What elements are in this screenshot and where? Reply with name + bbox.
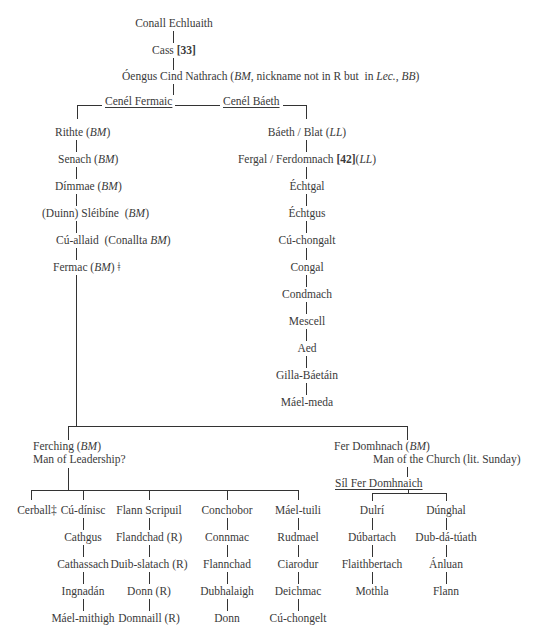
person-ferching-desc-4-2: Ciarodur	[278, 558, 319, 571]
connector	[227, 518, 228, 530]
connector	[149, 545, 150, 557]
connector	[149, 599, 150, 611]
connector	[306, 356, 307, 368]
person-ferching-desc-1-0: Cú-dínisc	[61, 504, 106, 517]
person-ferching-desc-4-4: Cú-chongelt	[270, 612, 327, 625]
person-ferching-desc-4-3: Deichmac	[275, 585, 322, 598]
person-ferching-desc-1-1: Cathgus	[64, 531, 102, 544]
person-fer-domhnach: Fer Domhnach (BM)	[334, 440, 430, 453]
person-ferching-desc-3-4: Donn	[214, 612, 240, 625]
connector	[77, 105, 78, 119]
person-domhnach-desc-0-1: Dúbartach	[348, 531, 396, 544]
person-conall-echluaith: Conall Echluaith	[135, 17, 213, 30]
person-baeth-line-10: Máel-meda	[281, 396, 333, 409]
connector	[306, 140, 307, 152]
person-baeth-line-1: Fergal / Ferdomnach [42](LL)	[238, 153, 376, 166]
connector	[372, 493, 373, 501]
person-ferching-desc-3-0: Conchobor	[201, 504, 252, 517]
person-cass: Cass [33]	[152, 44, 196, 57]
connector	[446, 572, 447, 584]
connector	[83, 599, 84, 611]
connector	[76, 167, 77, 179]
connector	[407, 426, 408, 440]
person-ferching-desc-4-0: Máel-tuili	[275, 504, 321, 517]
person-ferching-desc-3-3: Dubhalaigh	[200, 585, 254, 598]
person-oengus-cind-nathrach: Óengus Cind Nathrach (BM, nickname not i…	[122, 70, 419, 83]
connector	[298, 545, 299, 557]
person-ferching-desc-1-2: Cathassach	[57, 558, 109, 571]
generation-bar	[68, 426, 408, 427]
connector	[83, 545, 84, 557]
connector	[149, 490, 150, 500]
person-sleibine: (Duinn) Sléibíne (BM)	[42, 207, 149, 220]
connector	[372, 518, 373, 530]
person-domhnach-desc-1-3: Flann	[433, 585, 459, 598]
person-ferching-desc-1-3: Ingnadán	[62, 585, 105, 598]
connector	[306, 105, 307, 119]
connector	[446, 545, 447, 557]
connector	[31, 490, 32, 500]
person-ferching-desc-4-1: Rudmael	[277, 531, 319, 544]
person-ferching-desc-2-3: Donn (R)	[127, 585, 171, 598]
connector	[227, 572, 228, 584]
connector	[298, 518, 299, 530]
connector	[372, 572, 373, 584]
connector	[83, 572, 84, 584]
person-domhnach-desc-0-0: Dulrí	[360, 504, 384, 517]
person-domhnach-desc-0-3: Mothla	[355, 585, 388, 598]
person-fermac: Fermac (BM) ǂ	[53, 261, 120, 274]
person-cu-allaid: Cú-allaid (Conallta BM)	[56, 234, 171, 247]
person-baeth-line-3: Échtgus	[288, 207, 325, 220]
connector	[173, 58, 174, 70]
branch-label-cenel-baeth: Cenél Báeth	[220, 95, 283, 108]
connector	[68, 426, 69, 440]
person-baeth-line-7: Mescell	[289, 315, 325, 328]
person-baeth-line-9: Gilla-Báetáin	[276, 369, 338, 382]
person-domhnach-desc-1-1: Dub-dá-túath	[415, 531, 476, 544]
person-ferching-desc-3-2: Flannchad	[203, 558, 251, 571]
person-baeth-line-5: Congal	[290, 261, 323, 274]
person-baeth-line-4: Cú-chongalt	[279, 234, 336, 247]
person-ferching-desc-2-2: Duib-slatach (R)	[111, 558, 188, 571]
ferching-gloss: Man of Leadership?	[33, 453, 126, 466]
children-bar	[31, 490, 299, 491]
connector	[298, 599, 299, 611]
connector	[407, 467, 408, 477]
person-ferching-desc-3-1: Connmac	[205, 531, 249, 544]
connector	[68, 468, 69, 490]
connector	[227, 490, 228, 500]
connector	[149, 518, 150, 530]
person-ferching-desc-2-4: Domnaill (R)	[118, 612, 180, 625]
person-baeth-line-2: Échtgal	[289, 180, 324, 193]
connector	[76, 221, 77, 233]
branch-label-cenel-fermaic: Cenél Fermaic	[102, 95, 175, 108]
person-ferching-desc-2-1: Flandchad (R)	[116, 531, 182, 544]
connector	[306, 194, 307, 206]
connector	[306, 383, 307, 395]
connector	[76, 140, 77, 152]
connector	[372, 545, 373, 557]
connector	[446, 518, 447, 530]
connector	[446, 493, 447, 501]
connector	[227, 545, 228, 557]
connector	[76, 194, 77, 206]
person-ferching-desc-0-0: Cerball‡	[17, 504, 57, 517]
connector	[83, 518, 84, 530]
person-ferching-desc-1-4: Máel-mithigh	[51, 612, 114, 625]
person-baeth-line-8: Aed	[297, 342, 316, 355]
person-baeth-line-6: Condmach	[282, 288, 332, 301]
person-ferching-desc-2-0: Flann Scripuil	[116, 504, 182, 517]
connector	[76, 248, 77, 260]
person-domhnach-desc-0-2: Flaithbertach	[342, 558, 403, 571]
connector	[83, 490, 84, 500]
person-ferching: Ferching (BM)	[33, 440, 101, 453]
connector	[173, 31, 174, 43]
connector	[306, 329, 307, 341]
connector	[76, 275, 77, 427]
sept-bar	[372, 493, 447, 494]
connector	[227, 599, 228, 611]
person-baeth-line-0: Báeth / Blat (LL)	[268, 126, 346, 139]
person-dimmae: Dímmae (BM)	[55, 180, 122, 193]
connector	[306, 248, 307, 260]
sept-sil-fer-domhnaich: Síl Fer Domhnaich	[335, 477, 423, 490]
